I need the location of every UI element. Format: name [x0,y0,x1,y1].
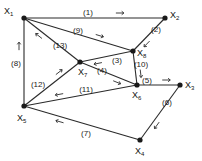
node-label: X1 [4,6,14,17]
edge-label: (5) [142,76,152,85]
edge-label: (11) [79,85,93,94]
edge-label: (4) [97,66,107,75]
edge-x8-x7 [80,51,133,62]
directed-graph-diagram: (1)(2)(9)(13)(3)(4)(10)(5)(6)(7)(11)(12)… [0,0,202,161]
node-x1 [21,15,26,20]
edge-label: (10) [134,60,149,69]
node-label: X6 [132,90,142,101]
edge-label: (7) [81,129,91,138]
node-label: X5 [17,113,27,124]
node-label: X7 [78,67,88,78]
edge-label: (8) [11,59,21,68]
node-x8 [130,48,135,53]
edge-label: (9) [73,26,83,35]
node-x4 [137,137,142,142]
node-label: X3 [185,80,195,91]
edge-label: (1) [83,8,93,17]
edge-x7-x6 [80,62,137,85]
node-label: X2 [170,10,180,21]
node-x2 [162,15,167,20]
edge-x2-x8 [133,18,165,51]
edge-x3-x4 [140,85,180,140]
node-x7 [77,59,82,64]
edge-label: (3) [112,56,122,65]
arrow-icon [144,41,150,47]
node-x6 [134,82,139,87]
edge-label: (12) [31,80,46,89]
node-label: X4 [135,146,145,157]
edge-label: (6) [162,98,172,107]
edge-label: (13) [53,41,68,50]
edge-label: (2) [151,25,161,34]
node-x5 [21,103,26,108]
node-label: X8 [137,48,147,59]
node-x3 [177,82,182,87]
edge-x7-x1 [24,18,80,62]
